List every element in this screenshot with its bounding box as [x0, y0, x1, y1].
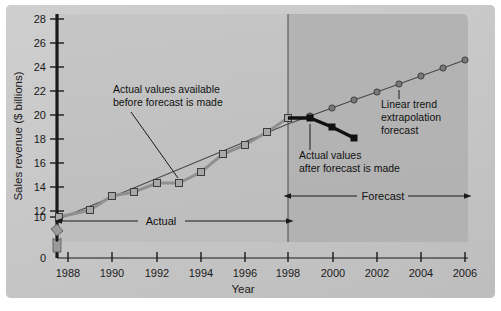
annot-after-line-2: after forecast is made [299, 162, 400, 174]
x-tick-1992: 1992 [145, 267, 169, 279]
y-tick-10: 10 [34, 211, 46, 223]
sales-revenue-forecast-chart: 28 26 24 22 20 18 16 14 12 0 10 Sales re… [0, 0, 501, 311]
x-tick-1988: 1988 [56, 267, 80, 279]
x-tick-2000: 2000 [321, 267, 345, 279]
range-band-actual-label: Actual [146, 215, 177, 227]
y-tick-28: 28 [34, 13, 46, 25]
annot-after-line-1: Actual values [299, 149, 361, 161]
x-tick-1998: 1998 [276, 267, 300, 279]
annot-before-line-2: before forecast is made [113, 96, 223, 108]
annot-before-line-1: Actual values available [113, 83, 220, 95]
y-tick-24: 24 [34, 61, 46, 73]
range-band-forecast-label: Forecast [362, 190, 405, 202]
annot-trend-line-3: forecast [381, 124, 418, 136]
y-tick-26: 26 [34, 37, 46, 49]
x-axis-ticks [68, 252, 465, 262]
annot-trend-line-1: Linear trend [381, 98, 437, 110]
y-tick-16: 16 [34, 157, 46, 169]
y-axis-title: Sales revenue ($ billions) [12, 71, 24, 200]
x-tick-1990: 1990 [100, 267, 124, 279]
x-tick-2004: 2004 [409, 267, 433, 279]
y-tick-22: 22 [34, 85, 46, 97]
x-tick-2002: 2002 [365, 267, 389, 279]
forecast-shaded-region [288, 14, 468, 242]
x-tick-1996: 1996 [233, 267, 257, 279]
x-axis-tick-labels: 1988 1990 1992 1994 1996 1998 2000 2002 … [56, 267, 477, 279]
figure-container: 28 26 24 22 20 18 16 14 12 0 10 Sales re… [0, 0, 501, 311]
y-tick-0: 0 [40, 252, 46, 264]
y-axis-tick-labels: 28 26 24 22 20 18 16 14 12 0 [34, 13, 46, 264]
y-tick-20: 20 [34, 109, 46, 121]
y-tick-18: 18 [34, 133, 46, 145]
y-tick-14: 14 [34, 181, 46, 193]
x-tick-1994: 1994 [189, 267, 213, 279]
annot-trend-line-2: extrapolation [381, 111, 441, 123]
x-axis-title: Year [231, 283, 254, 295]
x-tick-2006: 2006 [453, 267, 477, 279]
